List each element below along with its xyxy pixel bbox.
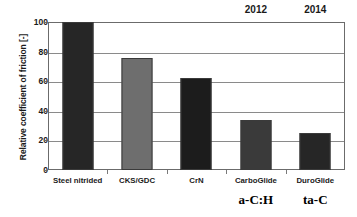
bar-steel-nitrided[interactable]	[62, 22, 93, 170]
x-tick-mark-2	[167, 170, 168, 174]
bar-cks-gdc[interactable]	[122, 58, 153, 170]
x-tick-mark-4	[286, 170, 287, 174]
x-axis-label-duroglide: DuroGlide	[296, 176, 334, 185]
x-axis-label-carboglide: CarboGlide	[235, 176, 277, 185]
x-axis-label-cks-gdc: CKS/GDC	[119, 176, 155, 185]
bar-slot-carboglide	[226, 22, 285, 170]
x-tick-mark-1	[107, 170, 108, 174]
bar-duroglide[interactable]	[300, 133, 331, 170]
x-axis-label-steel-nitrided: Steel nitrided	[53, 176, 102, 185]
annotation-year-2012: 2012	[245, 4, 267, 15]
annotation-material-ta-c: ta-C	[303, 192, 328, 208]
bars-layer	[48, 22, 345, 170]
bar-slot-crn	[167, 22, 226, 170]
y-tick-mark-0	[44, 170, 48, 171]
bar-chart: Relative coefficient of friction [-] 100…	[0, 0, 357, 217]
annotation-year-2014: 2014	[304, 4, 326, 15]
bar-slot-steel-nitrided	[48, 22, 107, 170]
x-tick-mark-3	[226, 170, 227, 174]
bar-slot-duroglide	[286, 22, 345, 170]
bar-carboglide[interactable]	[240, 120, 271, 170]
annotation-material-a-c-h: a-C:H	[239, 192, 274, 208]
bar-crn[interactable]	[181, 78, 212, 170]
bar-slot-cks-gdc	[107, 22, 166, 170]
x-axis-label-crn: CrN	[189, 176, 203, 185]
y-axis-ticks: 100 80 60 40 20 0	[14, 22, 48, 170]
